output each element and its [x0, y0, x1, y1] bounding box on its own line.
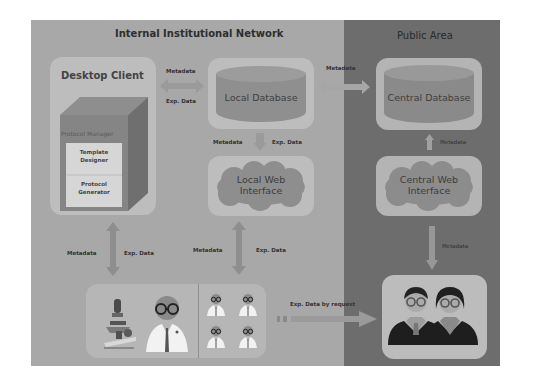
- central-database-label: Central Database: [384, 92, 474, 103]
- arrow-up-icon: [425, 134, 434, 150]
- centralweb-public-metadata-label: Metadata: [442, 243, 468, 249]
- desktop-client-title: Desktop Client: [61, 70, 144, 81]
- template-designer-module[interactable]: Template Designer: [66, 148, 122, 164]
- local-web-interface-line2: Interface: [208, 185, 314, 196]
- woman-user-icon: [426, 287, 478, 345]
- central-web-interface-line1: Central Web: [376, 174, 482, 185]
- localdb-centraldb-metadata-label: Metadata: [326, 65, 356, 71]
- double-arrow-horizontal-icon: [160, 79, 204, 93]
- double-arrow-vertical-icon: [106, 222, 120, 276]
- microscope-icon: [102, 299, 138, 349]
- central-database-box: Central Database: [376, 58, 482, 130]
- scientist-icon: [142, 294, 192, 354]
- local-web-interface-box: Local Web Interface: [208, 156, 314, 216]
- central-web-interface-box: Central Web Interface: [376, 156, 482, 216]
- centraldb-centralweb-metadata-label: Metadata: [440, 139, 466, 145]
- client-researchers-expdata-label: Exp. Data: [124, 250, 154, 256]
- double-arrow-horizontal-icon: [318, 80, 370, 94]
- client-researchers-metadata-label: Metadata: [67, 250, 97, 256]
- researchers-public-expdata-label: Exp. Data by request: [290, 301, 355, 307]
- public-users-box: [382, 275, 487, 359]
- double-arrow-vertical-icon: [232, 221, 246, 275]
- client-localdb-expdata-label: Exp. Data: [166, 98, 196, 104]
- localweb-researchers-expdata-label: Exp. Data: [256, 247, 286, 253]
- researchers-divider: [198, 284, 199, 358]
- local-database-box: Local Database: [208, 58, 314, 129]
- desktop-client-box: Desktop Client Protocol Manager Template…: [50, 57, 156, 215]
- researchers-box: [86, 284, 266, 358]
- database-icon: Local Database: [216, 66, 306, 122]
- client-localdb-metadata-label: Metadata: [166, 68, 196, 74]
- dashed-arrow-right-icon: [277, 311, 377, 327]
- localdb-localweb-expdata-label: Exp. Data: [272, 139, 302, 145]
- arrow-down-icon: [254, 133, 266, 151]
- public-area-title: Public Area: [397, 30, 453, 41]
- central-web-interface-line2: Interface: [376, 185, 482, 196]
- localweb-researchers-metadata-label: Metadata: [193, 247, 223, 253]
- public-users-icon: [386, 281, 482, 353]
- local-web-interface-line1: Local Web: [208, 174, 314, 185]
- localdb-localweb-metadata-label: Metadata: [213, 139, 243, 145]
- protocol-manager-label: Protocol Manager: [61, 130, 113, 137]
- protocol-generator-module[interactable]: Protocol Generator: [66, 180, 122, 196]
- database-icon: Central Database: [384, 65, 474, 123]
- research-team-icon: [204, 292, 262, 350]
- local-database-label: Local Database: [216, 92, 306, 103]
- internal-network-title: Internal Institutional Network: [115, 28, 284, 39]
- arrow-down-icon: [426, 226, 438, 270]
